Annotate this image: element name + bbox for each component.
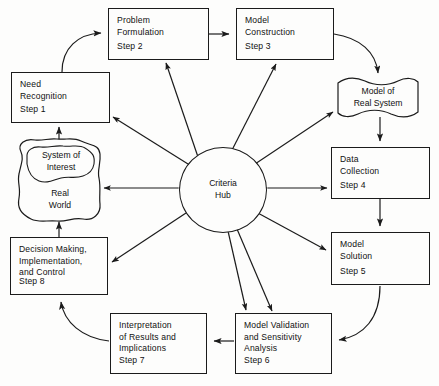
node-need-recognition[interactable]: Need Recognition Step 1 [11,72,110,123]
problem-formulation-step: Step 2 [109,41,151,53]
model-validation-step: Step 6 [236,355,278,367]
arrow-hub-problem-formulation [166,63,198,157]
model-solution-step: Step 5 [332,266,374,278]
need-recognition-step: Step 1 [12,104,54,116]
node-model-construction[interactable]: Model Construction Step 3 [236,8,334,60]
node-data-collection[interactable]: Data Collection Step 4 [331,147,430,199]
problem-formulation-title: Problem Formulation [109,15,208,38]
criteria-hub-line2: Hub [215,190,231,202]
arrow-hub-need-recognition [113,117,188,164]
node-model-solution[interactable]: Model Solution Step 5 [331,232,430,285]
data-collection-title: Data Collection [332,154,429,177]
real-world-label: Real World [27,188,93,211]
node-problem-formulation[interactable]: Problem Formulation Step 2 [108,8,209,60]
criteria-hub-line1: Criteria [209,178,237,190]
decision-making-title: Decision Making, Implementation, and Con… [11,244,107,279]
systems-methodology-diagram: Need Recognition Step 1 Problem Formulat… [0,0,439,386]
node-decision-making[interactable]: Decision Making, Implementation, and Con… [10,237,108,295]
arrow-hub-decision-making [112,213,186,262]
need-recognition-title: Need Recognition [12,79,109,102]
model-construction-title: Model Construction [237,15,333,38]
arrow-hub-model-construction [231,64,276,152]
model-of-real-system-label: Model of Real System [336,86,420,109]
system-of-interest-label: System of Interest [25,150,97,173]
model-validation-title: Model Validation and Sensitivity Analysi… [236,320,331,355]
node-criteria-hub[interactable]: Criteria Hub [179,147,267,233]
arrow-hub-model-validation [237,229,272,311]
arrow-solution-to-validation [339,286,380,340]
model-solution-title: Model Solution [332,239,429,262]
node-interpretation[interactable]: Interpretation of Results and Implicatio… [110,313,207,374]
interpretation-step: Step 7 [111,355,153,367]
arrow-hub-model-real-system [252,112,333,166]
data-collection-step: Step 4 [332,180,374,192]
node-model-of-real-system[interactable]: Model of Real System [336,78,420,118]
arrow-construction-to-model-real-system [334,34,378,73]
decision-making-step: Step 8 [11,276,53,288]
interpretation-title: Interpretation of Results and Implicatio… [111,320,206,355]
model-construction-step: Step 3 [237,41,279,53]
arrow-need-to-problem [62,33,101,72]
node-real-world[interactable]: System of Interest Real World [13,136,105,224]
arrow-interpretation-to-decision [61,302,109,341]
arrow-hub-model-solution [256,212,326,250]
node-model-validation[interactable]: Model Validation and Sensitivity Analysi… [235,313,332,374]
